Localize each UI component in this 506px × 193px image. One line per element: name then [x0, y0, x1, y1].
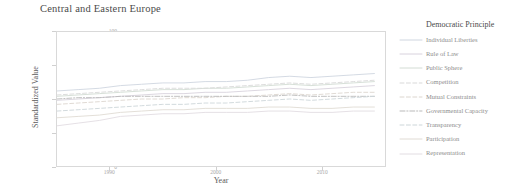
legend-item[interactable]: Individual Liberties	[399, 33, 506, 47]
legend-line-icon	[399, 149, 423, 159]
y-axis-label: Standardized Value	[31, 66, 40, 128]
legend-item-label: Individual Liberties	[426, 37, 477, 44]
series-line	[57, 96, 374, 111]
legend-items: Individual LibertiesRule of LawPublic Sp…	[399, 33, 506, 161]
chart-figure: Central and Eastern Europe Standardized …	[0, 0, 506, 193]
x-tick-mark	[109, 167, 110, 171]
legend-item-label: Participation	[426, 136, 459, 143]
legend-line-icon	[399, 92, 423, 102]
series-lines	[57, 32, 385, 166]
legend-line-icon	[399, 78, 423, 88]
legend-item-label: Transparency	[426, 122, 461, 129]
page-title: Central and Eastern Europe	[40, 3, 161, 14]
legend-line-icon	[399, 63, 423, 73]
legend-line-icon	[399, 120, 423, 130]
legend-item[interactable]: Competition	[399, 76, 506, 90]
legend-item[interactable]: Governmental Capacity	[399, 104, 506, 118]
series-line	[57, 92, 374, 104]
legend-line-icon	[399, 35, 423, 45]
x-tick-mark	[216, 167, 217, 171]
legend-item[interactable]: Mutual Constraints	[399, 90, 506, 104]
legend-title: Democratic Principle	[426, 20, 506, 29]
x-tick-mark	[322, 167, 323, 171]
legend-item[interactable]: Rule of Law	[399, 47, 506, 61]
legend: Democratic Principle Individual Libertie…	[399, 20, 506, 161]
legend-item-label: Public Sphere	[426, 65, 462, 72]
legend-item-label: Rule of Law	[426, 51, 459, 58]
legend-item[interactable]: Representation	[399, 147, 506, 161]
y-tick-mark	[52, 167, 56, 168]
legend-item[interactable]: Participation	[399, 132, 506, 146]
legend-line-icon	[399, 106, 423, 116]
legend-line-icon	[399, 134, 423, 144]
legend-item-label: Competition	[426, 79, 459, 86]
x-axis-label: Year	[56, 176, 386, 185]
legend-item[interactable]: Public Sphere	[399, 61, 506, 75]
legend-item-label: Mutual Constraints	[426, 94, 476, 101]
series-line	[57, 111, 374, 126]
legend-item-label: Governmental Capacity	[426, 108, 488, 115]
legend-item[interactable]: Transparency	[399, 118, 506, 132]
legend-item-label: Representation	[426, 150, 465, 157]
legend-line-icon	[399, 49, 423, 59]
plot-area	[56, 31, 386, 167]
